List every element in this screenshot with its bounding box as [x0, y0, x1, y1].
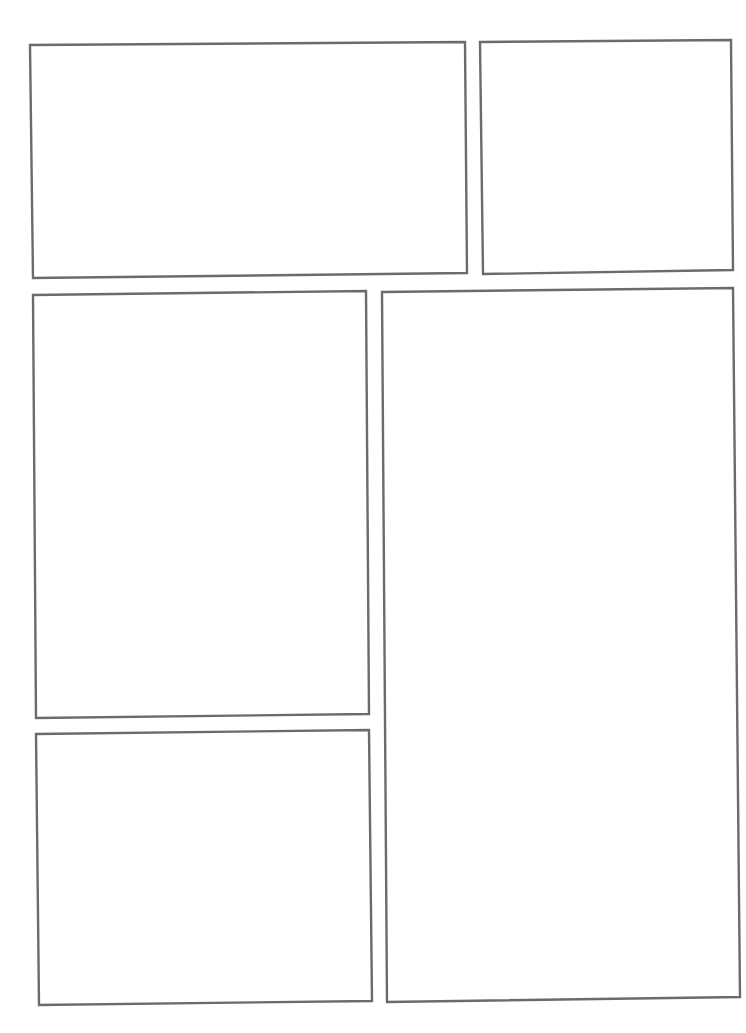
- panel-3: [33, 291, 369, 718]
- panel-4: [36, 730, 372, 1005]
- panel-5: [382, 288, 740, 1002]
- panel-1: [30, 42, 467, 278]
- comic-page: [0, 0, 746, 1033]
- panel-2: [480, 40, 733, 274]
